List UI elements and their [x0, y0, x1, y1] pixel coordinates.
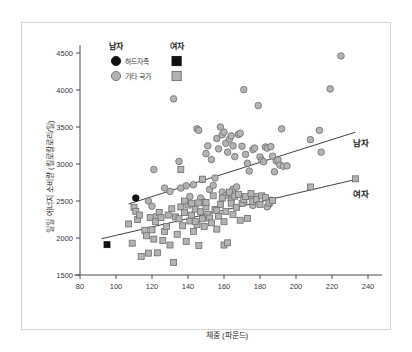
- y-tick-label: 2500: [56, 197, 73, 206]
- series-label-female: 여자: [353, 189, 369, 199]
- data-point: [151, 236, 157, 242]
- legend-marker-square: [172, 56, 181, 65]
- data-point: [237, 130, 244, 137]
- data-point: [144, 233, 150, 239]
- data-point: [205, 143, 212, 150]
- data-point: [221, 129, 228, 136]
- data-point: [284, 163, 291, 170]
- data-point: [149, 227, 155, 233]
- y-tick-label: 1500: [56, 271, 73, 280]
- data-point: [190, 228, 196, 234]
- x-tick-label: 100: [110, 282, 123, 291]
- data-point: [151, 166, 158, 173]
- data-point: [189, 200, 195, 206]
- data-point: [208, 156, 215, 163]
- data-point: [178, 167, 184, 173]
- data-point: [216, 213, 222, 219]
- data-point: [224, 149, 231, 156]
- data-point: [165, 212, 171, 218]
- series-labels-group: 남자여자: [353, 138, 369, 199]
- data-point: [215, 146, 222, 153]
- y-axis-label: 일일 에너지 소비량 (킬로칼로리/일): [44, 112, 55, 242]
- data-point: [176, 158, 183, 165]
- data-point: [199, 176, 205, 182]
- data-point: [270, 198, 276, 204]
- x-tick-label: 220: [326, 282, 339, 291]
- data-point: [237, 217, 243, 223]
- data-point: [178, 204, 184, 210]
- data-point: [163, 224, 169, 230]
- data-point: [167, 188, 174, 195]
- data-point: [244, 160, 251, 167]
- data-point: [225, 240, 231, 246]
- data-point: [241, 86, 248, 93]
- legend-marker-circle: [111, 71, 120, 80]
- legend-header-male: 남자: [109, 41, 124, 51]
- data-point: [208, 220, 214, 226]
- data-point: [230, 212, 236, 218]
- x-tick-label: 140: [182, 282, 195, 291]
- legend-item-label: 하드자족: [125, 57, 150, 66]
- data-point: [192, 218, 198, 224]
- x-tick-label: 80: [76, 282, 84, 291]
- data-point: [167, 242, 173, 248]
- data-point: [196, 127, 203, 134]
- data-point: [104, 242, 110, 248]
- data-point: [352, 176, 358, 182]
- y-tick-label: 2000: [56, 234, 73, 243]
- x-tick-label: 200: [290, 282, 303, 291]
- legend-header-female: 여자: [170, 41, 185, 51]
- x-axis-label: 체중 (파운드): [162, 329, 292, 340]
- series-label-male: 남자: [353, 138, 369, 148]
- data-point: [251, 145, 258, 152]
- y-tick-label: 3000: [56, 160, 73, 169]
- data-point: [307, 136, 314, 143]
- data-point: [203, 150, 210, 157]
- data-point: [201, 224, 207, 230]
- y-tick-label: 3500: [56, 123, 73, 132]
- data-point: [181, 209, 187, 215]
- x-tick-label: 240: [362, 282, 375, 291]
- data-point: [138, 254, 144, 260]
- data-point: [181, 198, 187, 204]
- data-point: [214, 226, 220, 232]
- data-point: [142, 227, 148, 233]
- data-point: [246, 168, 253, 175]
- data-point: [278, 126, 285, 133]
- data-point: [233, 184, 240, 191]
- figure-frame: 1500200025003000350040004500801001201401…: [21, 22, 391, 330]
- data-point: [196, 200, 202, 206]
- data-point: [158, 215, 164, 221]
- data-point: [239, 143, 246, 150]
- data-point: [149, 203, 156, 210]
- data-point: [214, 207, 220, 213]
- data-point: [154, 250, 160, 256]
- data-point: [260, 158, 267, 165]
- legend-group: 남자여자하드자족기타 국가: [109, 41, 185, 81]
- data-point: [176, 216, 182, 222]
- y-tick-label: 4000: [56, 86, 73, 95]
- data-point: [174, 231, 180, 237]
- data-point: [221, 219, 227, 225]
- data-point: [160, 238, 166, 244]
- data-point: [248, 191, 254, 197]
- data-point: [210, 182, 217, 189]
- legend-item-label: 기타 국가: [125, 72, 152, 81]
- data-point: [133, 195, 140, 202]
- data-point: [257, 201, 263, 207]
- legend-marker-circle: [111, 56, 120, 65]
- data-point: [136, 212, 142, 218]
- data-point: [271, 168, 278, 175]
- data-point: [242, 151, 249, 158]
- data-point: [189, 212, 195, 218]
- data-point: [268, 143, 275, 150]
- figure-container: 1500200025003000350040004500801001201401…: [0, 0, 412, 352]
- x-tick-label: 160: [218, 282, 231, 291]
- data-point: [230, 143, 237, 150]
- data-point: [171, 259, 177, 265]
- data-point: [327, 86, 334, 93]
- data-point: [196, 242, 202, 248]
- data-point: [203, 199, 209, 205]
- data-point: [255, 102, 262, 109]
- axes-group: 1500200025003000350040004500801001201401…: [56, 45, 382, 291]
